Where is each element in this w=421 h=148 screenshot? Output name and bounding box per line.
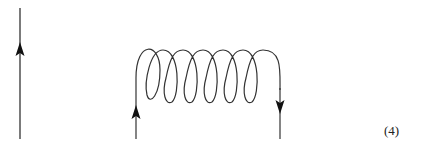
coil-propagator xyxy=(136,49,280,139)
straight-propagator xyxy=(16,8,25,139)
coil-path xyxy=(136,49,280,102)
equation-number: (4) xyxy=(384,123,399,139)
diagram-canvas xyxy=(0,0,421,148)
